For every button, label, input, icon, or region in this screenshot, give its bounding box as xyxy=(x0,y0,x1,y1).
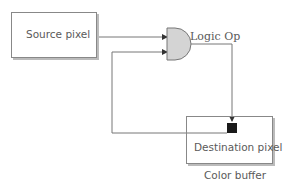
source-pixel-box: Source pixel xyxy=(11,12,97,58)
logic-gate-icon xyxy=(167,28,191,60)
source-pixel-label: Source pixel xyxy=(26,28,90,40)
destination-pixel-box: Destination pixel xyxy=(186,116,273,164)
color-buffer-caption: Color buffer xyxy=(204,169,266,181)
logic-op-label: Logic Op xyxy=(190,30,240,43)
gate-to-destination-line xyxy=(185,44,232,121)
destination-pixel-label: Destination pixel xyxy=(194,141,282,153)
